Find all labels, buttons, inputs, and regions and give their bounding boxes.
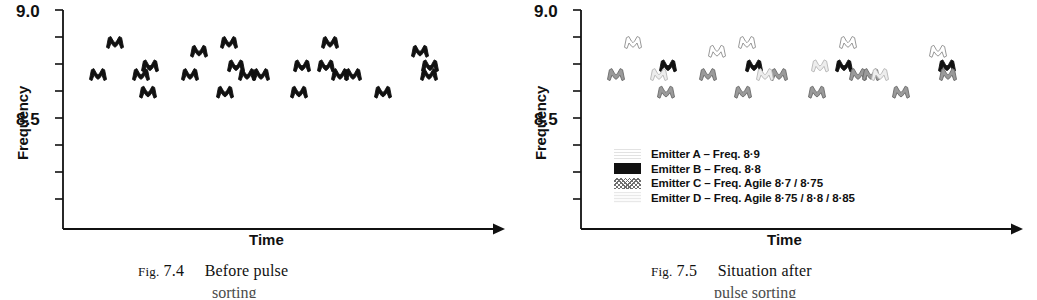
pulse-marker — [872, 69, 889, 81]
y-axis-ticks — [55, 10, 63, 199]
pulse-marker — [840, 37, 857, 49]
x-axis-label: Time — [767, 231, 802, 248]
pulse-marker — [345, 69, 362, 81]
pulse-marker — [625, 37, 642, 49]
figure-7-5-panel: 9.0 8.5 Frequency Time Emitter A – Freq.… — [518, 0, 1036, 300]
pulse-marker — [133, 69, 150, 81]
y-tick-label-90: 9.0 — [534, 2, 558, 22]
pulse-marker — [294, 60, 311, 72]
legend-row-d: Emitter D – Freq. Agile 8·75 / 8·8 / 8·8… — [614, 191, 855, 206]
pulse-marker — [291, 86, 308, 98]
legend-swatch-c — [614, 178, 641, 189]
pulse-marker — [142, 60, 159, 72]
legend-swatch-b — [614, 163, 641, 174]
y-axis-label: Frequency — [14, 86, 31, 160]
pulse-marker — [651, 69, 668, 81]
caption-number: 7.5 — [677, 262, 698, 279]
legend-swatch-a — [614, 149, 641, 160]
figure-caption-line2: sorting — [212, 284, 302, 298]
chart-before-sorting — [0, 0, 518, 246]
chart-after-sorting — [518, 0, 1036, 246]
legend-swatch-d — [614, 192, 641, 203]
pulse-marker — [140, 86, 157, 98]
pulse-marker — [735, 86, 752, 98]
pulse-marker — [191, 45, 208, 57]
legend-row-a: Emitter A – Freq. 8·9 — [614, 147, 855, 162]
caption-prefix: Fig. — [651, 264, 672, 279]
legend-label-b: Emitter B – Freq. 8·8 — [651, 163, 761, 175]
pulse-marker — [221, 37, 238, 49]
pulse-marker — [658, 86, 675, 98]
pulse-marker — [322, 37, 339, 49]
y-axis-label: Frequency — [532, 86, 549, 160]
pulse-marker — [107, 37, 124, 49]
pulse-marker — [757, 69, 774, 81]
legend-row-b: Emitter B – Freq. 8·8 — [614, 162, 855, 177]
pulse-marker — [608, 69, 625, 81]
legend-label-a: Emitter A – Freq. 8·9 — [651, 148, 760, 160]
pulse-marker — [893, 86, 910, 98]
figure-caption: Fig. 7.5 Situation after — [651, 262, 812, 280]
x-axis-label: Time — [249, 231, 284, 248]
caption-number: 7.4 — [164, 262, 185, 279]
pulse-marker — [375, 86, 392, 98]
figure-pair: 9.0 8.5 Frequency Time Fig. 7.4 Before p… — [0, 0, 1037, 300]
pulse-marker — [217, 86, 234, 98]
pulse-marker — [253, 69, 270, 81]
pulse-marker — [739, 37, 756, 49]
pulse-marker — [182, 69, 199, 81]
y-axis-ticks — [573, 10, 581, 199]
pulse-marker — [412, 45, 429, 57]
pulse-marker — [836, 60, 853, 72]
caption-text: Situation after — [718, 262, 812, 279]
figure-caption: Fig. 7.4 Before pulse — [138, 262, 288, 280]
x-axis-arrowhead — [493, 224, 505, 235]
figure-caption-line2: pulse sorting — [714, 284, 834, 298]
pulse-marker — [318, 60, 335, 72]
y-tick-label-90: 9.0 — [16, 2, 40, 22]
figure-7-4-panel: 9.0 8.5 Frequency Time Fig. 7.4 Before p… — [0, 0, 518, 300]
legend-label-c: Emitter C – Freq. Agile 8·7 / 8·75 — [651, 177, 823, 189]
pulse-marker — [930, 45, 947, 57]
legend-label-d: Emitter D – Freq. Agile 8·75 / 8·8 / 8·8… — [651, 192, 855, 204]
pulse-marker — [809, 86, 826, 98]
legend-row-c: Emitter C – Freq. Agile 8·7 / 8·75 — [614, 176, 855, 191]
pulse-marker — [812, 60, 829, 72]
pulse-marker — [709, 45, 726, 57]
caption-text: Before pulse — [205, 262, 289, 279]
pulse-marker — [700, 69, 717, 81]
pulse-marker — [90, 69, 107, 81]
pulse-markers-before — [90, 37, 439, 99]
x-axis-arrowhead — [1011, 224, 1023, 235]
emitter-legend: Emitter A – Freq. 8·9Emitter B – Freq. 8… — [614, 147, 855, 205]
caption-prefix: Fig. — [138, 264, 159, 279]
pulse-markers-after — [608, 37, 957, 99]
